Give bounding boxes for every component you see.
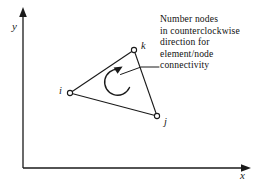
figure-canvas: y x i j k Number nodes in counterclockwi… (0, 0, 269, 184)
node-marker-i (67, 90, 72, 95)
y-axis-arrowhead-icon (19, 7, 27, 17)
annotation-text-block: Number nodes in counterclockwise directi… (160, 13, 268, 71)
node-label-i: i (59, 86, 62, 97)
edge-i-k (70, 50, 134, 93)
node-label-k: k (141, 41, 146, 52)
x-axis (23, 164, 251, 172)
annotation-line-5: connectivity (160, 59, 268, 71)
annotation-line-2: in counterclockwise (160, 25, 268, 37)
annotation-line-4: element/node (160, 48, 268, 60)
counterclockwise-arc-arrow (105, 66, 130, 95)
element-triangle (70, 50, 157, 116)
node-marker-k (131, 47, 136, 52)
y-axis (19, 7, 27, 168)
x-axis-label: x (240, 170, 245, 181)
edge-k-j (134, 50, 157, 116)
node-label-j: j (164, 117, 167, 128)
y-axis-label: y (12, 21, 17, 32)
annotation-line-1: Number nodes (160, 13, 268, 25)
node-marker-j (154, 113, 159, 118)
edge-j-i (70, 93, 157, 116)
annotation-line-3: direction for (160, 36, 268, 48)
